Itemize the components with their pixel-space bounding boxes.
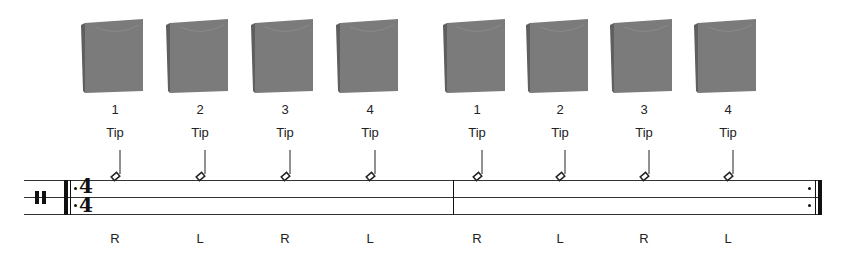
tip-note-icon xyxy=(722,150,738,184)
staff-line-middle xyxy=(24,197,822,198)
tip-note-icon xyxy=(554,150,570,184)
staff-line-top xyxy=(24,180,822,181)
stroke-label: Tip xyxy=(708,125,748,140)
sticking-label: R xyxy=(457,231,497,246)
tip-note-icon xyxy=(109,150,125,184)
percussion-clef-icon xyxy=(35,191,39,204)
repeat-start-thick-bar xyxy=(64,180,68,215)
cajon-icon xyxy=(336,17,402,95)
beat-count: 2 xyxy=(180,102,220,117)
cajon-icon xyxy=(81,17,147,95)
sticking-label: L xyxy=(708,231,748,246)
beat-count: 1 xyxy=(457,102,497,117)
cajon-icon xyxy=(526,17,592,95)
sticking-label: R xyxy=(265,231,305,246)
stroke-label: Tip xyxy=(457,125,497,140)
percussion-clef-icon-bar2 xyxy=(42,191,46,204)
stroke-label: Tip xyxy=(95,125,135,140)
tip-note-icon xyxy=(279,150,295,184)
stroke-label: Tip xyxy=(624,125,664,140)
sticking-label: R xyxy=(624,231,664,246)
time-signature-bottom: 4 xyxy=(79,195,93,215)
beat-count: 3 xyxy=(624,102,664,117)
cajon-icon xyxy=(443,17,509,95)
repeat-dot-top xyxy=(74,187,77,190)
staff-line-bottom xyxy=(24,214,822,215)
sticking-label: L xyxy=(350,231,390,246)
repeat-end-thin-bar xyxy=(815,180,816,215)
beat-count: 4 xyxy=(708,102,748,117)
stroke-label: Tip xyxy=(265,125,305,140)
stroke-label: Tip xyxy=(350,125,390,140)
repeat-start-thin-bar xyxy=(70,180,71,215)
repeat-dot-bottom-end xyxy=(808,204,811,207)
sticking-label: R xyxy=(95,231,135,246)
stroke-label: Tip xyxy=(540,125,580,140)
repeat-end-thick-bar xyxy=(818,180,822,215)
cajon-icon xyxy=(610,17,676,95)
beat-count: 1 xyxy=(95,102,135,117)
tip-note-icon xyxy=(471,150,487,184)
beat-count: 3 xyxy=(265,102,305,117)
measure-barline xyxy=(453,180,454,215)
stroke-label: Tip xyxy=(180,125,220,140)
cajon-icon xyxy=(166,17,232,95)
tip-note-icon xyxy=(194,150,210,184)
cajon-icon xyxy=(694,17,760,95)
sticking-label: L xyxy=(180,231,220,246)
cajon-icon xyxy=(251,17,317,95)
tip-note-icon xyxy=(364,150,380,184)
repeat-dot-bottom xyxy=(74,204,77,207)
sticking-label: L xyxy=(540,231,580,246)
beat-count: 2 xyxy=(540,102,580,117)
beat-count: 4 xyxy=(350,102,390,117)
tip-note-icon xyxy=(638,150,654,184)
repeat-dot-top-end xyxy=(808,187,811,190)
